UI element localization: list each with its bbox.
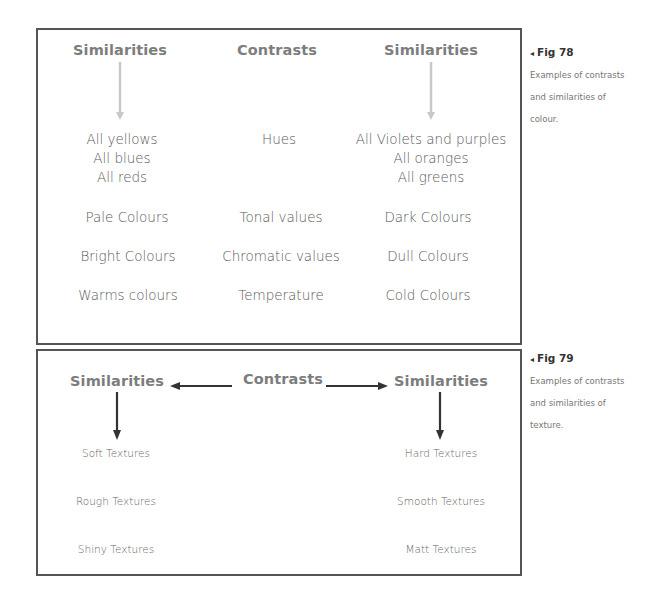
fig78-tonal-values: Tonal values — [240, 208, 323, 227]
fig79-shiny-textures: Shiny Textures — [78, 540, 154, 559]
fig78-cold-colours: Cold Colours — [385, 286, 470, 305]
fig79-soft-textures: Soft Textures — [82, 444, 150, 463]
fig79-header-similarities-right: Similarities — [394, 373, 488, 389]
fig79-right-arrow-icon — [326, 380, 390, 392]
fig78-label-text: Fig 78 — [537, 46, 574, 58]
fig78-label: ◂Fig 78 — [530, 45, 655, 61]
fig79-left-arrow-icon — [170, 380, 234, 392]
fig79-header-contrasts: Contrasts — [243, 371, 323, 387]
fig79-rough-textures: Rough Textures — [76, 492, 156, 511]
fig79-caption: ◂Fig 79 Examples of contrasts and simila… — [530, 351, 655, 436]
fig78-similar-hues-left: All yellows All blues All reds — [86, 130, 157, 187]
text-all-reds: All reds — [86, 168, 157, 187]
fig78-warm-colours: Warms colours — [78, 286, 177, 305]
text-all-yellows: All yellows — [86, 130, 157, 149]
text-all-blues: All blues — [86, 149, 157, 168]
fig78-down-arrow-right-icon — [423, 62, 439, 122]
fig78-pale-colours: Pale Colours — [86, 208, 169, 227]
caption-pointer-icon: ◂ — [530, 49, 534, 58]
fig79-smooth-textures: Smooth Textures — [397, 492, 485, 511]
fig78-desc-line-2: and similarities of — [530, 86, 655, 108]
fig78-header-contrasts: Contrasts — [237, 42, 317, 58]
fig79-label: ◂Fig 79 — [530, 351, 655, 367]
fig78-similar-hues-right: All Violets and purples All oranges All … — [356, 130, 507, 187]
text-all-greens: All greens — [356, 168, 507, 187]
fig78-description: Examples of contrasts and similarities o… — [530, 64, 655, 130]
text-all-oranges: All oranges — [356, 149, 507, 168]
fig78-dull-colours: Dull Colours — [387, 247, 469, 266]
caption-pointer-icon: ◂ — [530, 355, 534, 364]
fig79-header-similarities-left: Similarities — [70, 373, 164, 389]
fig78-contrast-hues: Hues — [262, 130, 296, 149]
fig78-dark-colours: Dark Colours — [384, 208, 471, 227]
fig79-description: Examples of contrasts and similarities o… — [530, 370, 655, 436]
fig78-desc-line-1: Examples of contrasts — [530, 64, 655, 86]
fig79-label-text: Fig 79 — [537, 352, 574, 364]
fig78-down-arrow-left-icon — [112, 62, 128, 122]
fig79-desc-line-3: texture. — [530, 414, 655, 436]
fig79-down-arrow-left-icon — [110, 392, 124, 442]
fig78-desc-line-3: colour. — [530, 108, 655, 130]
fig79-down-arrow-right-icon — [433, 392, 447, 442]
text-all-violets-purples: All Violets and purples — [356, 130, 507, 149]
fig78-temperature: Temperature — [238, 286, 324, 305]
fig78-header-similarities-left: Similarities — [73, 42, 167, 58]
fig78-caption: ◂Fig 78 Examples of contrasts and simila… — [530, 45, 655, 130]
fig79-desc-line-2: and similarities of — [530, 392, 655, 414]
fig78-chromatic-values: Chromatic values — [222, 247, 340, 266]
fig79-hard-textures: Hard Textures — [405, 444, 477, 463]
fig78-header-similarities-right: Similarities — [384, 42, 478, 58]
fig79-matt-textures: Matt Textures — [406, 540, 477, 559]
fig78-bright-colours: Bright Colours — [80, 247, 175, 266]
fig79-desc-line-1: Examples of contrasts — [530, 370, 655, 392]
